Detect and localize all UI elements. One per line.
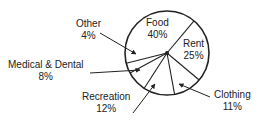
- medical-label: Medical & Dental 8%: [8, 59, 84, 83]
- rent-pct: 25%: [183, 50, 204, 62]
- clothing-pct: 11%: [214, 101, 251, 113]
- other-arrow: [100, 33, 136, 54]
- rent-label: Rent 25%: [183, 38, 204, 62]
- clothing-label: Clothing 11%: [214, 89, 251, 113]
- recreation-pct: 12%: [82, 103, 130, 115]
- food-label: Food 40%: [146, 17, 169, 41]
- clothing-arrow: [179, 84, 210, 97]
- other-name: Other: [76, 18, 101, 30]
- recreation-label: Recreation 12%: [82, 91, 130, 115]
- other-pct: 4%: [76, 30, 101, 42]
- other-label: Other 4%: [76, 18, 101, 42]
- food-pct: 40%: [146, 29, 169, 41]
- food-name: Food: [146, 17, 169, 29]
- medical-name: Medical & Dental: [8, 59, 84, 71]
- rent-name: Rent: [183, 38, 204, 50]
- medical-pct: 8%: [8, 71, 84, 83]
- recreation-name: Recreation: [82, 91, 130, 103]
- clothing-name: Clothing: [214, 89, 251, 101]
- slice-boundary-recreation: [167, 53, 175, 94]
- pie-center-dot: [165, 51, 169, 55]
